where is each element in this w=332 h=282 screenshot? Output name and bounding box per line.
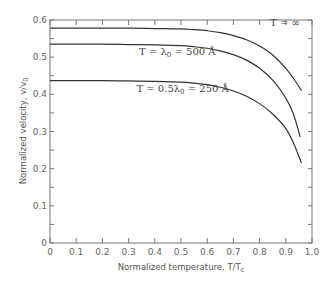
x-tick-label: 0.2 (95, 247, 109, 257)
chart: 00.10.20.30.40.50.60.70.80.91.0 00.10.20… (0, 0, 332, 282)
x-tick-label: 1.0 (305, 247, 320, 257)
y-tick-label: 0.6 (33, 15, 48, 25)
x-tick-label: 0.8 (252, 247, 267, 257)
y-tick-label: 0.1 (33, 201, 47, 211)
y-tick-label: 0.2 (33, 164, 47, 174)
x-tick-label: 0.4 (148, 247, 163, 257)
annotation-2: T = 0.5λ0 = 250 Å (136, 83, 229, 96)
annotation-1: T = λ0 = 500 Å (139, 46, 216, 59)
y-tick-label: 0.5 (33, 52, 47, 62)
x-tick-label: 0.7 (226, 247, 240, 257)
y-tick-label: 0.3 (33, 127, 47, 137)
x-tick-label: 0.3 (121, 247, 135, 257)
x-tick-label: 0 (47, 247, 53, 257)
y-tick-label: 0 (41, 238, 47, 248)
x-tick-label: 0.9 (279, 247, 294, 257)
x-tick-label: 0.5 (174, 247, 188, 257)
y-axis-title: Normalized velocity, v/v0 (18, 78, 30, 185)
annotation-0: T = ∞ (270, 17, 300, 28)
y-tick-label: 0.4 (33, 89, 48, 99)
x-axis-title: Normalized temperature, T/Tc (118, 262, 245, 274)
x-tick-label: 0.6 (200, 247, 215, 257)
x-tick-label: 0.1 (69, 247, 83, 257)
series-line-0 (50, 28, 302, 90)
